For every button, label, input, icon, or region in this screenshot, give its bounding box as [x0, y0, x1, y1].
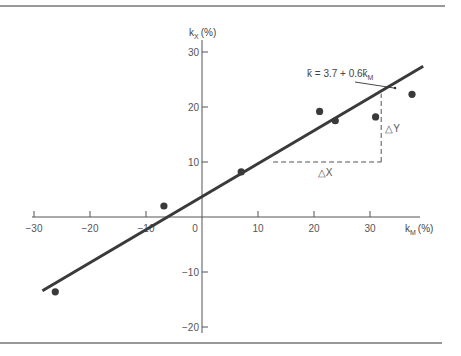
- equation-pointer-head: [394, 87, 397, 90]
- equation-pointer-arrow: [355, 82, 394, 88]
- regression-line: [42, 66, 423, 290]
- data-points: [52, 91, 416, 296]
- x-tick-label: 0: [192, 223, 198, 234]
- y-tick-label: 30: [188, 47, 200, 58]
- data-point: [408, 91, 415, 98]
- x-tick-label: −20: [82, 223, 99, 234]
- y-tick-label: 10: [188, 157, 200, 168]
- delta-x-label: △X: [318, 167, 333, 178]
- slope-triangle: △X△Y: [273, 94, 400, 178]
- data-point: [316, 108, 323, 115]
- regression-equation: k̄ = 3.7 + 0.6k̄M: [307, 68, 374, 81]
- x-tick-label: 20: [308, 223, 320, 234]
- data-point: [238, 168, 245, 175]
- x-tick-label: −30: [26, 223, 43, 234]
- x-tick-label: 10: [252, 223, 264, 234]
- x-axis-title: kM(%): [405, 223, 433, 236]
- regression-line-group: [42, 66, 423, 290]
- y-tick-label: −10: [182, 267, 199, 278]
- axes: −30−20−100102030−20−10102030: [26, 40, 420, 333]
- x-tick-label: 30: [364, 223, 376, 234]
- scatter-chart: −30−20−100102030−20−10102030 △X△Y kX(%) …: [0, 0, 461, 356]
- data-point: [332, 117, 339, 124]
- y-axis-title: kX(%): [189, 27, 216, 40]
- delta-y-label: △Y: [385, 123, 400, 134]
- data-point: [160, 202, 167, 209]
- data-point: [372, 113, 379, 120]
- y-tick-label: −20: [182, 322, 199, 333]
- y-tick-label: 20: [188, 102, 200, 113]
- data-point: [52, 288, 59, 295]
